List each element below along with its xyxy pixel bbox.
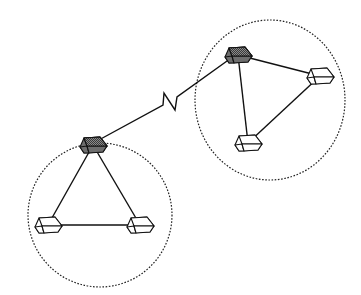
cluster-left-boundary (28, 143, 172, 287)
wireless-link (97, 56, 234, 141)
access-point-icon (225, 47, 252, 63)
cluster-boundaries (28, 20, 345, 287)
client-device-icon (35, 217, 62, 233)
client-device-icon (127, 217, 154, 233)
cluster-right-boundary (195, 20, 345, 180)
link-hub-right-node-right-2 (238, 55, 248, 143)
network-devices (35, 47, 334, 233)
link-hub-left-node-left-2 (93, 145, 140, 225)
access-point-icon (80, 137, 107, 153)
link-node-right-1-node-right-2 (248, 76, 320, 143)
link-hub-left-node-left-1 (48, 145, 93, 225)
network-diagram (0, 0, 361, 295)
client-device-icon (307, 68, 334, 84)
client-device-icon (235, 135, 262, 151)
